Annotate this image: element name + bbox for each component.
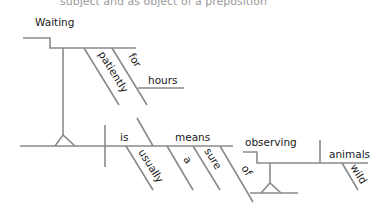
main-clause: is means usually a sure of [20,118,255,202]
word-waiting: Waiting [35,16,74,28]
word-hours: hours [148,74,178,86]
word-waiting-text: Waiting [35,16,74,28]
word-wild: wild [348,162,369,186]
gerund-subject-phrase: Waiting patiently for hours [23,16,184,146]
word-means: means [175,131,210,143]
word-of: of [239,163,255,178]
object-pedestal [261,183,281,193]
caption-fragment: subject and as object of a preposition [60,0,267,8]
word-observing: observing [245,136,297,148]
word-usually: usually [136,147,166,185]
word-a: a [181,154,195,166]
word-is: is [120,131,128,143]
complement-divider [137,118,153,146]
word-animals: animals [329,148,370,160]
subject-pedestal [55,135,75,146]
sentence-diagram: subject and as object of a preposition W… [0,0,385,211]
word-for: for [126,51,144,70]
slant-a [167,146,193,190]
gerund-step-line [23,38,136,48]
gerund-object-phrase: observing animals wild [243,136,370,193]
